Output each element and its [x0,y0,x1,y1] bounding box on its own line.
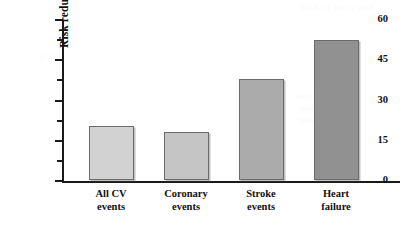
bar [314,40,359,180]
y-axis-tick-label: 45 [378,54,389,65]
category-label-line: failure [286,201,386,214]
y-axis-tick-minor [57,39,63,41]
x-axis-line [62,181,400,183]
y-axis-tick-major [55,180,63,182]
y-axis-tick-label: 60 [378,14,389,25]
y-axis-tick-minor [57,120,63,122]
bar [89,126,134,180]
y-axis-line [62,20,64,183]
y-axis-tick-major [55,100,63,102]
y-axis-tick-minor [57,79,63,81]
y-axis-tick-label: 30 [378,95,389,106]
y-axis-tick-major [55,19,63,21]
bar-chart: Risk of its ss and seen in the and heart… [0,0,419,226]
y-axis-tick-major [55,59,63,61]
bleed-through-text: Risk of its ss and [300,2,374,12]
y-axis-tick-minor [57,160,63,162]
y-axis-tick-label: 15 [378,135,389,146]
x-axis-category-label: Heartfailure [286,188,386,213]
bar [164,132,209,180]
category-label-line: Heart [286,188,386,201]
bar [239,79,284,180]
y-axis-tick-major [55,140,63,142]
y-axis-tick-label: 0 [383,175,388,186]
plot-area: Risk reduction (%) 015304560 All CVevent… [62,20,400,182]
